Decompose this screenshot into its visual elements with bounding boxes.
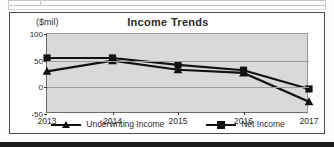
- legend-entry[interactable]: Underwriting Income: [51, 119, 164, 129]
- plot-area: 100500-5020132014201520162017: [46, 33, 308, 113]
- y-axis-tick-label: 100: [30, 30, 43, 39]
- square-marker: [174, 61, 181, 68]
- legend-entry[interactable]: Net Income: [206, 119, 284, 129]
- chart-legend: Underwriting IncomeNet Income: [10, 117, 326, 131]
- page-footer-rule: [0, 142, 334, 147]
- y-axis-unit-label: ($mil): [36, 17, 59, 27]
- y-axis-tick: [44, 114, 47, 115]
- x-axis-tick: [178, 112, 179, 115]
- square-marker: [206, 120, 236, 129]
- gridline: [47, 61, 309, 62]
- table-rule-left: [8, 0, 9, 10]
- x-axis-tick: [244, 112, 245, 115]
- legend-label: Underwriting Income: [86, 119, 164, 129]
- table-rule-column: [40, 0, 41, 6]
- chart-container: Income Trends ($mil) 100500-502013201420…: [9, 12, 325, 134]
- x-axis-tick: [113, 112, 114, 115]
- gridline: [47, 87, 309, 88]
- table-rule-top: [8, 0, 326, 1]
- triangle-marker: [51, 120, 81, 129]
- y-axis-tick: [44, 34, 47, 35]
- y-axis-tick: [44, 87, 47, 88]
- table-rule-bottom: [8, 9, 326, 10]
- square-marker: [240, 67, 247, 74]
- series-layer: [47, 34, 309, 114]
- legend-label: Net Income: [241, 119, 284, 129]
- table-fragment: [0, 0, 334, 10]
- scanned-page: Income Trends ($mil) 100500-502013201420…: [0, 0, 334, 147]
- y-axis-tick-label: 50: [34, 56, 43, 65]
- table-rule-right: [325, 0, 326, 10]
- y-axis-tick: [44, 61, 47, 62]
- y-axis-tick-label: 0: [39, 83, 43, 92]
- table-rule-middle: [8, 5, 326, 6]
